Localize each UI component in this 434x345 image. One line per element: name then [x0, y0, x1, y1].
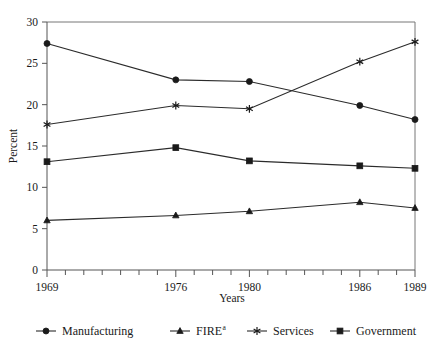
legend-item-fire[interactable]: FIREa	[170, 323, 226, 338]
square-marker-icon	[357, 163, 363, 169]
chart-canvas: 051015202530 19691976198019861989 Percen…	[0, 0, 434, 345]
x-tick-label: 1969	[36, 281, 59, 293]
legend-item-services[interactable]: Services	[247, 324, 314, 338]
legend-label: Services	[273, 324, 314, 338]
legend-label: FIRE	[196, 324, 222, 338]
series-manufacturing	[44, 40, 418, 122]
circle-marker-icon	[44, 40, 50, 46]
circle-marker-icon	[43, 328, 49, 334]
legend-label: Manufacturing	[62, 324, 133, 338]
star-marker-icon	[356, 58, 363, 66]
y-tick-label: 10	[27, 181, 39, 193]
legend-item-government[interactable]: Government	[330, 324, 417, 338]
square-marker-icon	[337, 328, 343, 334]
y-tick-label: 25	[27, 57, 39, 69]
x-axis-title: Years	[219, 292, 245, 304]
circle-marker-icon	[246, 79, 252, 85]
series-services	[44, 38, 419, 128]
series-line	[47, 42, 415, 125]
series-government	[44, 145, 418, 171]
y-tick-label: 20	[27, 99, 39, 111]
data-series-group	[44, 38, 419, 223]
x-tick-label: 1976	[164, 281, 187, 293]
y-tick-label: 0	[32, 264, 38, 276]
y-axis-tick-labels: 051015202530	[27, 16, 39, 276]
star-marker-icon	[412, 38, 419, 46]
square-marker-icon	[173, 145, 179, 151]
x-axis-ticks	[47, 270, 415, 277]
circle-marker-icon	[357, 102, 363, 108]
legend-item-manufacturing[interactable]: Manufacturing	[36, 324, 133, 338]
circle-marker-icon	[412, 117, 418, 123]
circle-marker-icon	[173, 77, 179, 83]
series-fire	[44, 199, 418, 223]
x-tick-label: 1989	[404, 281, 427, 293]
line-chart: 051015202530 19691976198019861989 Percen…	[0, 0, 434, 345]
triangle-marker-icon	[357, 199, 363, 205]
x-tick-label: 1986	[348, 281, 371, 293]
chart-legend: ManufacturingFIREaServicesGovernment	[36, 323, 417, 338]
y-tick-label: 5	[32, 223, 38, 235]
y-tick-label: 30	[27, 16, 39, 28]
square-marker-icon	[44, 159, 50, 165]
y-axis-ticks	[42, 22, 47, 270]
square-marker-icon	[247, 158, 253, 164]
square-marker-icon	[412, 165, 418, 171]
y-tick-label: 15	[27, 140, 39, 152]
legend-superscript: a	[222, 323, 226, 332]
legend-label: Government	[356, 324, 417, 338]
y-axis-title: Percent	[7, 128, 19, 163]
